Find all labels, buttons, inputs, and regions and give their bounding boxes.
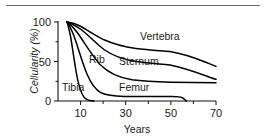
x-tick-label-70: 70 bbox=[210, 107, 222, 119]
x-tick-label-50: 50 bbox=[165, 107, 177, 119]
curve-label-tibia: Tibia bbox=[62, 81, 85, 93]
x-tick-label-30: 30 bbox=[120, 107, 132, 119]
x-tick-label-10: 10 bbox=[74, 107, 86, 119]
cellularity-vs-age-chart: 100 50 0 10 30 50 70 Years Cellularity (… bbox=[0, 0, 266, 138]
y-tick-label-50: 50 bbox=[39, 56, 51, 68]
y-tick-label-0: 0 bbox=[45, 95, 51, 107]
y-axis-title: Cellularity (%) bbox=[28, 28, 40, 93]
curve-label-sternum: Sternum bbox=[119, 55, 159, 67]
curve-label-femur: Femur bbox=[119, 81, 150, 93]
figure-root: 100 50 0 10 30 50 70 Years Cellularity (… bbox=[0, 0, 266, 138]
curve-label-rib: Rib bbox=[89, 53, 105, 65]
x-axis-title: Years bbox=[124, 123, 150, 135]
y-tick-label-100: 100 bbox=[33, 16, 51, 28]
curve-label-vertebra: Vertebra bbox=[140, 30, 180, 42]
